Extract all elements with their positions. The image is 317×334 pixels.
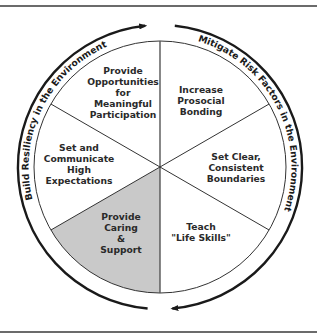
segment-top-left-label: Provide Opportunities for Meaningful Par… <box>87 65 159 120</box>
svg-text:&: & <box>117 233 125 244</box>
svg-text:Set Clear,: Set Clear, <box>211 151 260 162</box>
svg-text:Communicate: Communicate <box>44 153 115 164</box>
svg-text:Prosocial: Prosocial <box>177 95 224 106</box>
svg-text:Provide: Provide <box>101 211 141 222</box>
segment-left-label: Set and Communicate High Expectations <box>44 142 115 186</box>
svg-text:Consistent: Consistent <box>208 162 264 173</box>
svg-text:Boundaries: Boundaries <box>207 173 266 184</box>
segment-bottom-right-label: Teach "Life Skills" <box>171 221 231 243</box>
segment-top-right-label: Increase Prosocial Bonding <box>177 84 224 117</box>
svg-text:Set and: Set and <box>59 142 99 153</box>
svg-text:Increase: Increase <box>179 84 223 95</box>
svg-text:Caring: Caring <box>104 222 138 233</box>
svg-text:Provide: Provide <box>103 65 143 76</box>
svg-text:High: High <box>67 164 91 175</box>
svg-text:Bonding: Bonding <box>180 106 223 117</box>
svg-text:Support: Support <box>100 244 142 255</box>
svg-text:Meaningful: Meaningful <box>94 98 152 109</box>
svg-text:for: for <box>116 87 131 98</box>
svg-text:Teach: Teach <box>186 221 215 232</box>
resiliency-wheel-diagram: Build Resiliency in the Environment Miti… <box>0 0 317 334</box>
svg-text:"Life Skills": "Life Skills" <box>171 232 231 243</box>
svg-text:Opportunities: Opportunities <box>87 76 159 87</box>
svg-text:Participation: Participation <box>90 109 157 120</box>
svg-text:Expectations: Expectations <box>46 175 113 186</box>
segment-right-label: Set Clear, Consistent Boundaries <box>207 151 266 184</box>
